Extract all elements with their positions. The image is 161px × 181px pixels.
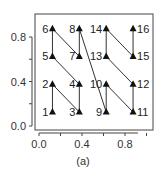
x-tick-label: 0.4: [74, 138, 89, 150]
triangle-marker-icon: [49, 108, 56, 115]
y-tick-label: 0.8: [11, 31, 26, 43]
triangle-marker-icon: [49, 52, 56, 59]
point-label: 9: [96, 106, 102, 118]
x-tick-label: 0.8: [117, 138, 132, 150]
point-label: 1: [42, 106, 48, 118]
z-order-curve-chart: 0.00.40.80.00.40.8 123456789101112131415…: [0, 0, 161, 181]
point-label: 12: [137, 78, 149, 90]
point-label: 16: [137, 23, 149, 35]
triangle-marker-icon: [103, 108, 110, 115]
point-label: 5: [42, 50, 48, 62]
triangle-marker-icon: [130, 25, 137, 32]
point-label: 10: [90, 78, 102, 90]
x-tick-label: 0.0: [31, 138, 46, 150]
y-tick-label: 0.4: [11, 76, 26, 88]
point-label: 6: [42, 23, 48, 35]
point-label: 15: [137, 50, 149, 62]
triangle-marker-icon: [49, 80, 56, 87]
point-label: 4: [69, 78, 75, 90]
point-label: 2: [42, 78, 48, 90]
point-label: 3: [69, 106, 75, 118]
triangle-marker-icon: [103, 25, 110, 32]
figure-caption: (a): [76, 155, 89, 167]
point-label: 11: [137, 106, 148, 118]
point-label: 13: [90, 50, 102, 62]
path-lines: [52, 29, 133, 112]
triangle-marker-icon: [103, 52, 110, 59]
point-label: 7: [69, 50, 75, 62]
point-label: 8: [69, 23, 75, 35]
point-label: 14: [90, 23, 102, 35]
triangle-marker-icon: [76, 25, 83, 32]
triangle-marker-icon: [103, 80, 110, 87]
triangle-marker-icon: [49, 25, 56, 32]
y-tick-label: 0.0: [11, 120, 26, 132]
